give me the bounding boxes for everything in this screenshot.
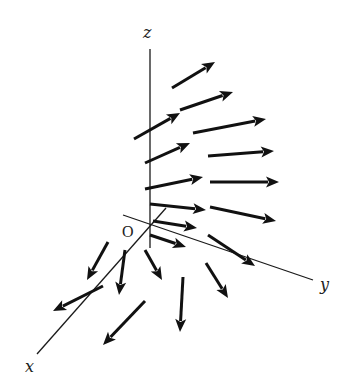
vector-arrows-group	[53, 62, 279, 345]
arrow-shaft	[210, 207, 265, 219]
vector-arrow	[180, 91, 233, 110]
arrow-shaft	[63, 286, 103, 306]
arrow-shaft	[134, 118, 170, 139]
vector-arrow	[208, 146, 274, 157]
z-axis-label: z	[142, 23, 152, 42]
vector-arrow	[153, 221, 197, 232]
vector-arrow	[145, 143, 190, 163]
vector-arrow	[87, 242, 108, 280]
arrow-shaft	[120, 250, 125, 284]
y-axis-label: y	[319, 275, 330, 294]
arrow-shaft	[208, 235, 246, 260]
vector-arrow	[210, 207, 276, 224]
vector-field-diagram: z y x O	[0, 0, 353, 386]
vector-arrow	[175, 277, 186, 332]
x-axis	[37, 208, 166, 354]
arrow-shaft	[153, 221, 186, 226]
arrow-shaft	[111, 301, 145, 337]
arrow-shaft	[145, 179, 192, 189]
arrow-shaft	[206, 263, 222, 289]
x-axis-label: x	[25, 357, 34, 376]
vector-arrow	[150, 203, 206, 214]
vector-arrow	[115, 250, 126, 295]
vector-arrow	[145, 174, 203, 189]
vector-arrow	[206, 263, 228, 298]
vector-arrow	[210, 177, 279, 188]
vector-arrow	[172, 62, 215, 88]
vector-arrow	[103, 301, 145, 345]
vector-arrow	[150, 235, 186, 248]
arrow-shaft	[193, 121, 255, 133]
arrow-shaft	[150, 204, 195, 209]
vector-arrow	[145, 250, 162, 280]
arrow-shaft	[92, 242, 108, 270]
vector-arrow	[134, 113, 180, 139]
arrow-shaft	[181, 277, 183, 321]
arrow-shaft	[208, 152, 263, 156]
vector-arrow	[193, 116, 266, 133]
arrow-shaft	[172, 68, 206, 88]
arrow-shaft	[180, 96, 223, 110]
origin-label: O	[122, 223, 134, 240]
arrow-shaft	[145, 250, 157, 270]
arrow-shaft	[150, 235, 176, 244]
vector-arrow	[208, 235, 255, 266]
